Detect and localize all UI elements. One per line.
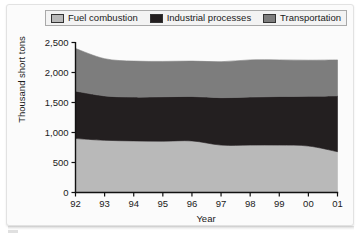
y-tick-label: 500: [53, 157, 69, 168]
area-series-transportation: [76, 49, 338, 98]
x-tick-label: 01: [332, 198, 343, 209]
x-tick-label: 92: [70, 198, 81, 209]
plot-area: 2,5002,0001,5001,00050009293949596979899…: [0, 0, 362, 236]
y-tick-label: 2,500: [45, 37, 69, 48]
chart-figure: Fuel combustion Industrial processes Tra…: [0, 0, 362, 236]
area-series-fuel-combustion: [76, 139, 338, 193]
y-tick-label: 1,000: [45, 127, 69, 138]
x-tick-label: 00: [303, 198, 314, 209]
stacked-area-chart: 2,5002,0001,5001,00050009293949596979899…: [0, 0, 362, 236]
x-tick-label: 93: [99, 198, 110, 209]
x-tick-label: 96: [187, 198, 198, 209]
y-tick-label: 2,000: [45, 67, 69, 78]
x-tick-label: 97: [216, 198, 227, 209]
x-tick-label: 95: [158, 198, 169, 209]
x-tick-label: 98: [245, 198, 256, 209]
x-tick-label: 94: [128, 198, 139, 209]
x-tick-label: 99: [274, 198, 285, 209]
y-tick-label: 1,500: [45, 97, 69, 108]
y-tick-label: 0: [63, 187, 68, 198]
